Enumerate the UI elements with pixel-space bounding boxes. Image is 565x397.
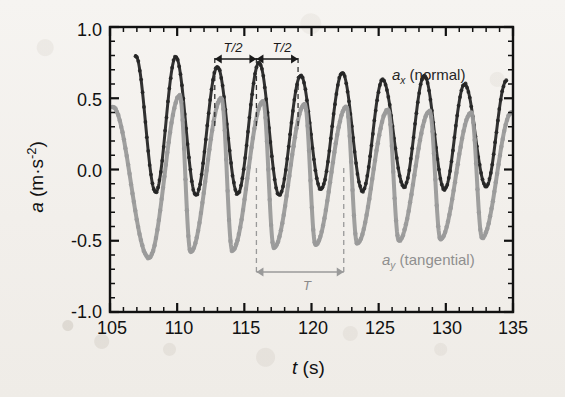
series-normal <box>134 54 509 196</box>
acceleration-vs-time-chart: a (m·s-2) t (s) 1.0 0.5 0.0 -0.5 -1.0 10… <box>0 0 565 397</box>
series-layer <box>110 54 513 260</box>
plot-area <box>0 0 565 397</box>
series-tangential <box>110 93 513 261</box>
arrow-period <box>256 268 343 277</box>
arrow-half-period-left <box>215 55 257 64</box>
arrow-half-period-right <box>256 55 298 64</box>
